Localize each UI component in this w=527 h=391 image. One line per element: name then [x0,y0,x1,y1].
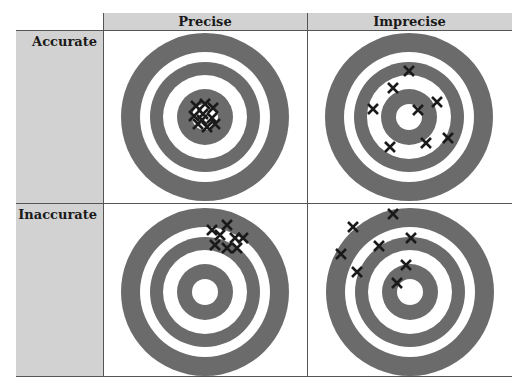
target-inaccurate-imprecise [326,208,494,376]
target-accurate-imprecise [325,33,493,201]
targets-layer [0,0,527,391]
target-accurate-precise [121,33,289,201]
target-inaccurate-precise [121,208,289,376]
